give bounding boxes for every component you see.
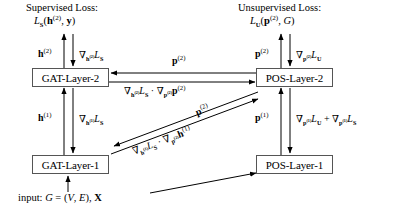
node-pos-layer-2[interactable]: POS-Layer-2 [256,68,333,87]
arrow-input-to-pos1 [150,173,256,193]
label-h1-forward: h(1) [38,113,52,124]
label-p2-gradient: ∇p(2)LU [296,50,321,61]
arrow-layer [0,0,417,210]
label-p2-cross-gradient: ∇h(2)LS · ∇p(2)p(2) [124,86,186,97]
unsupervised-loss-title: Unsupervised Loss: [238,2,321,13]
label-p2-forward: p(2) [255,49,269,60]
node-gat-layer-1[interactable]: GAT-Layer-1 [32,155,109,174]
label-p1-gradient: ∇p(1)LU + ∇p(1)LS [296,114,356,125]
label-h2-gradient: ∇h(2)LS [79,50,103,61]
label-p1-forward: p(1) [255,113,269,124]
node-pos-layer-1[interactable]: POS-Layer-1 [256,155,333,174]
unsupervised-loss-formula: LU(p(2), G) [250,15,295,26]
label-h2-forward: h(2) [38,49,52,60]
supervised-loss-formula: LS(h(2), y) [34,15,75,26]
node-gat-layer-2[interactable]: GAT-Layer-2 [32,68,109,87]
label-input: input: G = (V, E), X [18,192,102,203]
label-p2-cross-forward: p(2) [172,56,186,67]
label-h1-gradient: ∇h(1)LS [79,114,103,125]
architecture-diagram: Supervised Loss: LS(h(2), y) Unsupervise… [0,0,417,210]
supervised-loss-title: Supervised Loss: [26,2,98,13]
